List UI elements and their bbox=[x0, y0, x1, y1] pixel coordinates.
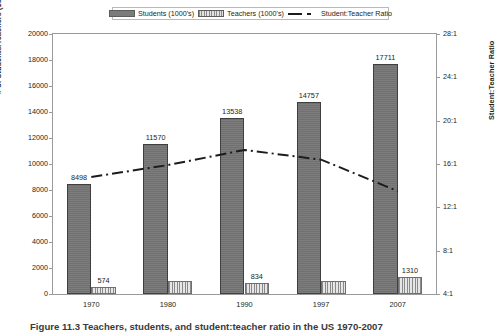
left-tick-label: 0 bbox=[2, 290, 48, 298]
x-tick-label: 1997 bbox=[291, 300, 351, 309]
teachers-bar-label: 574 bbox=[82, 277, 126, 285]
left-tick-label: 2000 bbox=[2, 264, 48, 272]
figure-caption: Figure 11.3 Teachers, students, and stud… bbox=[30, 321, 480, 332]
chart-legend: Students (1000's) Teachers (1000's) Stud… bbox=[112, 7, 389, 20]
right-tick-mark bbox=[437, 164, 440, 165]
legend-label-teachers: Teachers (1000's) bbox=[227, 10, 284, 18]
left-tick-label: 6000 bbox=[2, 212, 48, 220]
legend-item-students: Students (1000's) bbox=[109, 10, 194, 18]
ratio-line-swatch-icon bbox=[288, 10, 318, 18]
plot-inner: 8498574115701353883414757177111310 bbox=[53, 34, 436, 294]
students-bar-label: 8498 bbox=[57, 174, 101, 182]
left-tick-label: 12000 bbox=[2, 134, 48, 142]
left-tick-label: 18000 bbox=[2, 56, 48, 64]
x-tick-label: 1970 bbox=[61, 300, 121, 309]
right-tick-mark bbox=[437, 207, 440, 208]
ratio-line bbox=[91, 150, 397, 191]
right-tick-mark bbox=[437, 34, 440, 35]
x-tick-label: 2007 bbox=[368, 300, 428, 309]
left-tick-label: 4000 bbox=[2, 238, 48, 246]
right-tick-label: 16:1 bbox=[443, 160, 483, 168]
left-tick-label: 10000 bbox=[2, 160, 48, 168]
students-bar-label: 11570 bbox=[134, 134, 178, 142]
left-tick-label: 16000 bbox=[2, 82, 48, 90]
ratio-line-layer bbox=[53, 34, 436, 294]
right-tick-label: 12:1 bbox=[443, 203, 483, 211]
right-tick-mark bbox=[437, 294, 440, 295]
x-tick-label: 1990 bbox=[215, 300, 275, 309]
right-tick-label: 4:1 bbox=[443, 290, 483, 298]
teachers-bar-label: 834 bbox=[235, 273, 279, 281]
students-bar-label: 13538 bbox=[210, 108, 254, 116]
plot-area: 8498574115701353883414757177111310 bbox=[52, 33, 437, 295]
right-tick-label: 24:1 bbox=[443, 73, 483, 81]
students-swatch-icon bbox=[109, 10, 135, 17]
teachers-swatch-icon bbox=[198, 10, 224, 17]
left-tick-label: 20000 bbox=[2, 30, 48, 38]
legend-item-ratio: Student:Teacher Ratio bbox=[288, 10, 392, 18]
x-tick-label: 1980 bbox=[138, 300, 198, 309]
legend-label-ratio: Student:Teacher Ratio bbox=[321, 10, 392, 18]
students-bar-label: 17711 bbox=[363, 54, 407, 62]
teachers-bar-label: 1310 bbox=[388, 267, 432, 275]
right-axis-title: Student:Teacher Ratio bbox=[487, 41, 496, 120]
right-tick-mark bbox=[437, 77, 440, 78]
students-bar-label: 14757 bbox=[287, 92, 331, 100]
right-tick-mark bbox=[437, 121, 440, 122]
right-tick-label: 28:1 bbox=[443, 30, 483, 38]
right-tick-label: 8:1 bbox=[443, 247, 483, 255]
legend-label-students: Students (1000's) bbox=[138, 10, 194, 18]
right-tick-mark bbox=[437, 251, 440, 252]
left-axis-title: # of Students/Teachers (1000's) bbox=[0, 0, 3, 94]
legend-item-teachers: Teachers (1000's) bbox=[198, 10, 284, 18]
right-tick-label: 20:1 bbox=[443, 117, 483, 125]
left-tick-label: 14000 bbox=[2, 108, 48, 116]
left-tick-label: 8000 bbox=[2, 186, 48, 194]
